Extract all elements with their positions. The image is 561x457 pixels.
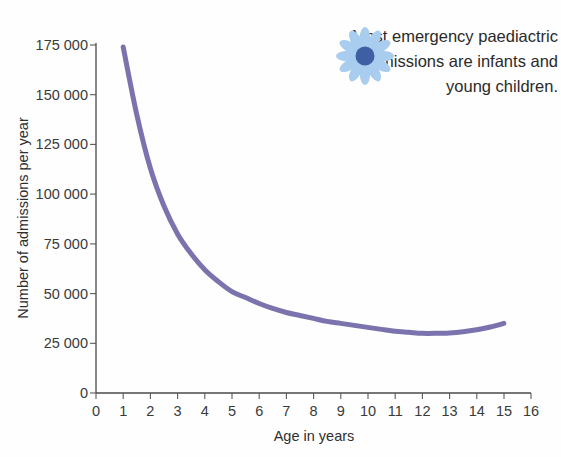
y-tick-label: 150 000: [36, 87, 88, 103]
x-tick-label: 5: [228, 403, 236, 419]
y-axis-title: Number of admissions per year: [15, 117, 31, 319]
y-axis-tick-labels: 175 000 150 000 125 000 100 000 75 000 5…: [36, 37, 88, 401]
x-tick-label: 13: [442, 403, 458, 419]
x-tick-label: 11: [388, 403, 403, 419]
x-tick-label: 7: [282, 403, 290, 419]
x-axis-tick-labels: 0 1 2 3 4 5 6 7 8 9 10 11 12 13 14 15 16: [92, 403, 539, 419]
flower-center: [356, 47, 375, 66]
y-tick-label: 175 000: [36, 37, 88, 53]
flower-icon: [334, 26, 396, 86]
y-tick-label: 0: [80, 385, 88, 401]
x-tick-label: 8: [310, 403, 318, 419]
x-tick-label: 6: [255, 403, 263, 419]
x-axis-tick-marks: [96, 393, 531, 399]
x-tick-label: 3: [174, 403, 182, 419]
x-tick-label: 1: [119, 403, 127, 419]
x-tick-label: 4: [201, 403, 209, 419]
x-axis-title: Age in years: [274, 428, 355, 444]
x-tick-label: 2: [146, 403, 154, 419]
x-tick-label: 10: [360, 403, 376, 419]
y-tick-label: 25 000: [44, 335, 88, 351]
y-axis-tick-marks: [90, 45, 96, 393]
annotation-callout: Most emergency paediactric admissions ar…: [334, 24, 558, 99]
x-tick-label: 15: [496, 403, 512, 419]
x-tick-label: 16: [523, 403, 539, 419]
x-tick-label: 0: [92, 403, 100, 419]
y-tick-label: 75 000: [44, 236, 88, 252]
x-tick-label: 14: [469, 403, 485, 419]
y-tick-label: 100 000: [36, 186, 88, 202]
y-tick-label: 125 000: [36, 136, 88, 152]
chart-figure: 175 000 150 000 125 000 100 000 75 000 5…: [0, 0, 561, 457]
x-tick-label: 12: [414, 403, 430, 419]
y-tick-label: 50 000: [44, 286, 88, 302]
x-tick-label: 9: [337, 403, 345, 419]
